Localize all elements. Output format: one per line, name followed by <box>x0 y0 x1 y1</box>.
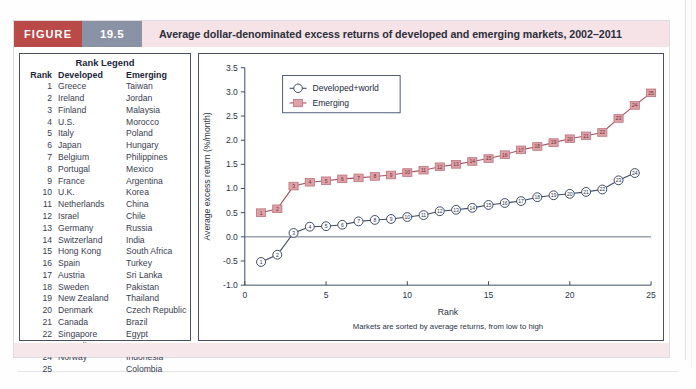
data-point-label: 17 <box>518 198 524 204</box>
table-row: 19New ZealandThailand <box>20 293 190 305</box>
legend-marker-emerging-icon <box>294 99 303 106</box>
cell-developed: Japan <box>58 140 126 152</box>
chart-inner: -1.0-0.50.00.51.01.52.02.53.03.505101520… <box>199 54 663 340</box>
data-point-label: 12 <box>437 208 443 214</box>
cell-developed: Spain <box>58 258 126 270</box>
cell-emerging: Sri Lanka <box>126 270 190 282</box>
x-axis-tick-label: 10 <box>403 290 413 300</box>
table-row: 1GreeceTaiwan <box>20 81 190 93</box>
excess-returns-line-chart: -1.0-0.50.00.51.01.52.02.53.03.505101520… <box>199 54 663 340</box>
cell-rank: 7 <box>20 152 58 164</box>
page-edge-right <box>685 0 686 360</box>
col-header-emerging: Emerging <box>126 70 190 81</box>
data-point-label: 11 <box>421 212 426 218</box>
table-row: 2IrelandJordan <box>20 93 190 105</box>
data-point-label: 9 <box>390 172 393 178</box>
cell-rank: 12 <box>20 211 58 223</box>
data-point-label: 25 <box>648 90 654 96</box>
x-axis-tick-label: 20 <box>565 290 575 300</box>
cell-developed: Denmark <box>58 305 126 317</box>
cell-developed: Netherlands <box>58 199 126 211</box>
cell-rank: 21 <box>20 317 58 329</box>
data-point-label: 18 <box>534 143 540 149</box>
cell-emerging: Colombia <box>126 364 190 376</box>
data-point-label: 14 <box>469 158 475 164</box>
chart-legend: Developed+worldEmerging <box>283 76 400 113</box>
y-axis-tick-label: -0.5 <box>223 256 238 266</box>
col-header-developed: Developed <box>58 70 126 81</box>
table-row: 9FranceArgentina <box>20 175 190 187</box>
cell-developed: Hong Kong <box>58 246 126 258</box>
cell-emerging: China <box>126 199 190 211</box>
cell-emerging: Mexico <box>126 163 190 175</box>
data-point-label: 5 <box>325 223 328 229</box>
cell-rank: 9 <box>20 175 58 187</box>
data-point-label: 10 <box>404 214 410 220</box>
rank-legend-panel: Rank Legend Rank Developed Emerging 1Gre… <box>19 53 191 341</box>
figure-title: Average dollar-denominated excess return… <box>142 21 669 47</box>
data-point-label: 22 <box>599 129 605 135</box>
y-axis-tick-label: 0.5 <box>226 208 238 218</box>
data-point-label: 7 <box>357 175 360 181</box>
table-row: 7BelgiumPhilippines <box>20 152 190 164</box>
data-point-label: 6 <box>341 176 344 182</box>
cell-rank: 22 <box>20 328 58 340</box>
cell-developed: Switzerland <box>58 234 126 246</box>
data-point-label: 23 <box>616 115 622 121</box>
cell-emerging: South Africa <box>126 246 190 258</box>
data-point-label: 4 <box>308 179 311 185</box>
data-point-label: 11 <box>421 167 426 173</box>
table-row: 15Hong KongSouth Africa <box>20 246 190 258</box>
cell-rank: 2 <box>20 93 58 105</box>
data-point-label: 23 <box>616 177 622 183</box>
data-point-label: 10 <box>404 169 410 175</box>
cell-emerging: India <box>126 234 190 246</box>
table-row: 14SwitzerlandIndia <box>20 234 190 246</box>
table-row: 22SingaporeEgypt <box>20 328 190 340</box>
cell-rank: 16 <box>20 258 58 270</box>
cell-rank: 15 <box>20 246 58 258</box>
cell-emerging: Korea <box>126 187 190 199</box>
cell-rank: 17 <box>20 270 58 282</box>
x-axis-tick-label: 5 <box>324 290 329 300</box>
y-axis-tick-label: 2.0 <box>226 135 238 145</box>
cell-emerging: Morocco <box>126 116 190 128</box>
y-axis-tick-label: -1.0 <box>223 280 238 290</box>
data-point-label: 8 <box>373 217 376 223</box>
cell-rank: 13 <box>20 222 58 234</box>
cell-rank: 6 <box>20 140 58 152</box>
cell-emerging: Czech Republic <box>126 305 190 317</box>
cell-developed: Germany <box>58 222 126 234</box>
legend-label-emerging: Emerging <box>313 98 350 108</box>
data-point-label: 21 <box>583 133 589 139</box>
page-edge-right-outer <box>691 0 692 368</box>
cell-emerging: Thailand <box>126 293 190 305</box>
data-point-label: 24 <box>632 170 638 176</box>
data-point-label: 19 <box>551 192 557 198</box>
legend-marker-developed-icon <box>294 84 303 92</box>
y-axis-tick-label: 3.5 <box>226 63 238 73</box>
figure-header: FIGURE 19.5 Average dollar-denominated e… <box>14 21 669 47</box>
table-row: 8PortugalMexico <box>20 163 190 175</box>
cell-emerging: Russia <box>126 222 190 234</box>
data-point-label: 20 <box>567 191 573 197</box>
chart-annotation: Markets are sorted by average returns, f… <box>353 322 543 331</box>
data-point-label: 19 <box>551 140 557 146</box>
cell-emerging: Turkey <box>126 258 190 270</box>
data-point-label: 6 <box>341 222 344 228</box>
table-row: 21CanadaBrazil <box>20 317 190 329</box>
cell-developed <box>58 364 126 376</box>
cell-rank: 11 <box>20 199 58 211</box>
table-row: 18SwedenPakistan <box>20 281 190 293</box>
table-row: 20DenmarkCzech Republic <box>20 305 190 317</box>
data-point-label: 13 <box>453 161 459 167</box>
data-point-label: 3 <box>292 230 295 236</box>
cell-developed: Singapore <box>58 328 126 340</box>
cell-emerging: Taiwan <box>126 81 190 93</box>
cell-emerging: Egypt <box>126 328 190 340</box>
cell-rank: 3 <box>20 105 58 117</box>
x-axis-tick-label: 25 <box>646 290 656 300</box>
data-point-label: 15 <box>486 202 492 208</box>
figure-tag-label: FIGURE <box>14 21 82 47</box>
cell-rank: 5 <box>20 128 58 140</box>
